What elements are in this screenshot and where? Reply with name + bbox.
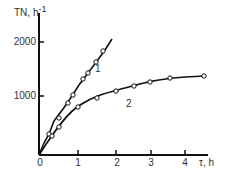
x-tick-0: 0 [37,157,43,168]
curve-1-markers [47,49,105,136]
y-tick-2000: 2000 [14,36,37,47]
x-tick-2: 2 [114,157,120,168]
x-tick-3: 3 [148,157,154,168]
chart: TN, h-1 1000 2000 0 1 2 3 4 τ, h 1 2 [0,0,231,175]
x-tick-4: 4 [182,157,188,168]
y-axis-label: TN, h-1 [14,4,46,18]
curve-1-label: 1 [95,63,101,74]
x-axis-label: τ, h [199,157,214,168]
curve-2 [39,76,205,155]
x-tick-1: 1 [75,157,81,168]
curve-2-label: 2 [126,98,132,109]
y-tick-1000: 1000 [14,90,37,101]
